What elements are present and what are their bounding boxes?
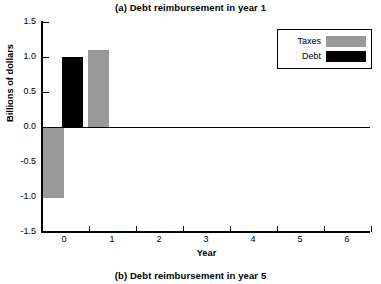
taxes-bar-year1-positive [88, 50, 109, 127]
x-axis-line [43, 231, 370, 233]
y-tick-label: -0.5 [2, 156, 36, 166]
x-tick-mark [183, 226, 184, 232]
legend-item: Debt [283, 49, 366, 63]
x-tick-mark [371, 226, 372, 232]
y-tick-label: -1.5 [2, 226, 36, 236]
legend-item: Taxes [283, 34, 366, 48]
y-tick-mark [43, 22, 49, 23]
x-tick-label: 5 [288, 234, 312, 244]
y-tick-mark [43, 57, 49, 58]
x-tick-label: 4 [241, 234, 265, 244]
zero-baseline [43, 127, 370, 128]
x-tick-label: 1 [100, 234, 124, 244]
taxes-bar-year0-negative [43, 128, 64, 198]
y-tick-label: -1.0 [2, 191, 36, 201]
legend-label: Debt [302, 51, 321, 61]
x-tick-label: 3 [194, 234, 218, 244]
x-tick-mark [136, 226, 137, 232]
y-axis-title: Billions of dollars [5, 18, 15, 148]
debt-bar-year0-positive [62, 57, 83, 127]
legend-swatch [326, 36, 366, 47]
x-tick-mark [324, 226, 325, 232]
chart-title-top: (a) Debt reimbursement in year 1 [0, 2, 381, 13]
x-tick-label: 6 [335, 234, 359, 244]
chart-figure: (a) Debt reimbursement in year 1 1.51.00… [0, 0, 381, 284]
legend-label: Taxes [297, 36, 321, 46]
chart-legend: TaxesDebt [277, 29, 372, 69]
y-tick-mark [43, 92, 49, 93]
x-tick-label: 2 [147, 234, 171, 244]
legend-swatch [326, 51, 366, 62]
x-tick-mark [89, 226, 90, 232]
x-tick-mark [277, 226, 278, 232]
x-tick-label: 0 [52, 234, 76, 244]
x-tick-mark [230, 226, 231, 232]
x-axis-title: Year [43, 248, 370, 258]
y-tick-mark [43, 232, 49, 233]
chart-title-bottom: (b) Debt reimbursement in year 5 [0, 270, 381, 281]
